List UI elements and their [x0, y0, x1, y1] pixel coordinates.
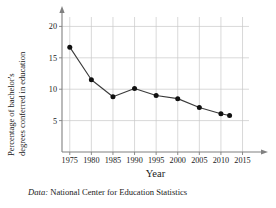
x-axis-title: Year	[146, 168, 165, 179]
source-caption: Data: National Center for Education Stat…	[28, 187, 187, 197]
chart-figure: Percentage of bachelor's degrees conferr…	[0, 0, 276, 208]
source-caption-text: National Center for Education Statistics	[48, 187, 187, 197]
data-series-line	[70, 47, 230, 115]
x-tick-label: 2005	[191, 156, 207, 165]
source-caption-key: Data:	[28, 187, 48, 197]
x-tick-label: 1980	[83, 156, 99, 165]
x-tick-label: 1990	[126, 156, 142, 165]
y-tick-label: 20	[38, 22, 57, 31]
x-tick-label: 2015	[234, 156, 250, 165]
x-tick-label: 1985	[105, 156, 121, 165]
data-point-markers	[67, 45, 232, 118]
y-tick-label: 5	[38, 116, 57, 125]
gridlines	[62, 17, 249, 152]
y-tick-label: 10	[38, 85, 57, 94]
axis-ticks	[59, 26, 243, 155]
line-chart-plot	[0, 0, 276, 208]
x-tick-label: 1975	[62, 156, 78, 165]
x-tick-label: 1995	[148, 156, 164, 165]
y-tick-label: 15	[38, 53, 57, 62]
x-tick-label: 2000	[170, 156, 186, 165]
x-tick-label: 2010	[213, 156, 229, 165]
